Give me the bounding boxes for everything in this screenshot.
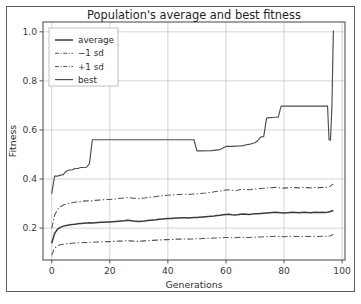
y-tick-labels: 0.20.40.60.81.0 [22,26,37,233]
x-tick-label: 40 [162,265,174,276]
x-tick-label: 80 [278,265,290,276]
y-tick-label: 0.6 [22,124,37,135]
legend-label--1-sd: −1 sd [78,48,104,58]
legend-label-best: best [78,75,98,85]
x-tick-label: 20 [104,265,116,276]
chart-legend[interactable]: average−1 sd+1 sdbest [49,28,118,86]
x-tick-labels: 020406080100 [49,265,351,276]
y-tick-label: 0.2 [22,222,37,233]
fitness-line-chart: 020406080100 0.20.40.60.81.0 Population'… [0,0,361,304]
legend-label--1-sd: +1 sd [78,62,104,72]
legend-label-average: average [78,35,114,45]
y-tick-label: 0.8 [22,75,37,86]
y-tick-label: 0.4 [22,173,37,184]
chart-title: Population's average and best fitness [87,8,301,22]
y-tick-label: 1.0 [22,26,37,37]
x-tick-label: 0 [49,265,55,276]
x-axis-label: Generations [165,279,222,290]
chart-figure: 020406080100 0.20.40.60.81.0 Population'… [0,0,361,304]
y-axis-label: Fitness [7,125,18,158]
x-tick-label: 60 [220,265,232,276]
x-tick-label: 100 [333,265,351,276]
